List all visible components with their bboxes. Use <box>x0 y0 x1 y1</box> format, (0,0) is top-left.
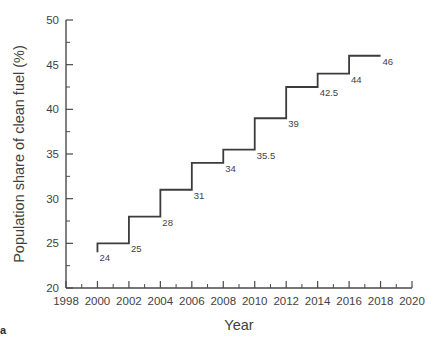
point-value-label: 35.5 <box>257 150 276 161</box>
x-tick-label: 2002 <box>116 295 142 307</box>
x-tick-label: 2014 <box>305 295 331 307</box>
x-axis-title: Year <box>224 317 253 333</box>
x-tick-label: 2008 <box>210 295 236 307</box>
point-value-label: 28 <box>162 217 173 228</box>
x-tick-label: 2012 <box>273 295 299 307</box>
y-tick-label: 30 <box>46 193 59 205</box>
figure-caption-mark: a <box>0 326 8 335</box>
x-tick-label: 2020 <box>399 295 425 307</box>
x-tick-label: 2004 <box>148 295 174 307</box>
x-tick-label: 1998 <box>53 295 79 307</box>
point-value-label: 42.5 <box>320 87 339 98</box>
y-tick-label: 35 <box>46 148 59 160</box>
x-tick-label: 2018 <box>368 295 394 307</box>
figure-container: 1998200020022004200620082010201220142016… <box>0 0 428 342</box>
y-tick-label: 40 <box>46 103 59 115</box>
x-tick-label: 2010 <box>242 295 268 307</box>
y-tick-label: 25 <box>46 237 59 249</box>
y-axis-title: Population share of clean fuel (%) <box>11 45 27 263</box>
x-tick-label: 2016 <box>336 295 362 307</box>
point-value-label: 25 <box>131 243 142 254</box>
point-value-label: 24 <box>99 252 110 263</box>
step-chart: 1998200020022004200620082010201220142016… <box>0 0 428 342</box>
y-tick-label: 20 <box>46 282 59 294</box>
point-value-label: 44 <box>351 74 362 85</box>
x-tick-label: 2006 <box>179 295 205 307</box>
point-value-label: 31 <box>194 190 205 201</box>
y-tick-label: 50 <box>46 14 59 26</box>
point-value-label: 34 <box>225 163 236 174</box>
step-line-series <box>97 56 380 253</box>
point-value-label: 39 <box>288 118 299 129</box>
x-tick-label: 2000 <box>85 295 111 307</box>
y-tick-label: 45 <box>46 59 59 71</box>
point-value-label: 46 <box>383 56 394 67</box>
